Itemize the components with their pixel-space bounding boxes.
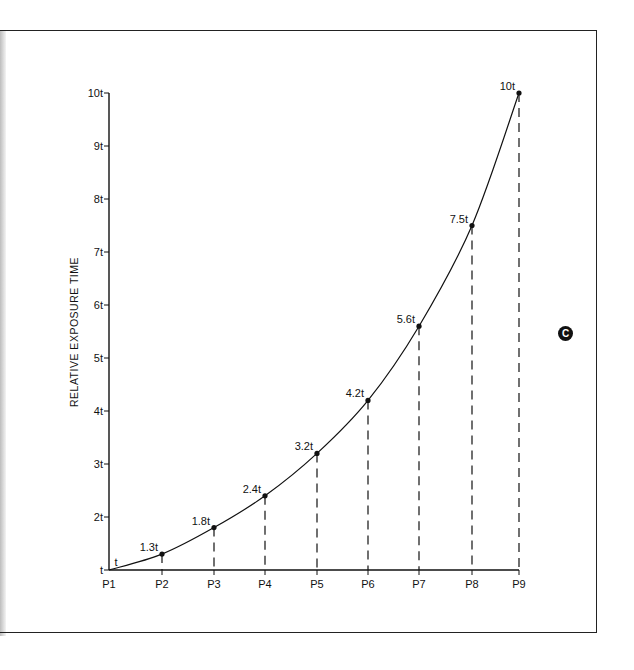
y-axis-label: RELATIVE EXPOSURE TIME: [68, 257, 80, 407]
data-label: 5.6t: [397, 313, 415, 325]
x-category-label: P3: [207, 578, 220, 590]
y-tick-label: 6t: [94, 299, 103, 311]
data-label: 1.3t: [140, 541, 158, 553]
data-point: [469, 223, 474, 228]
data-label: 2.4t: [243, 483, 261, 495]
y-tick-label: 4t: [94, 405, 103, 417]
data-point: [159, 552, 164, 557]
y-tick-label: 5t: [94, 352, 103, 364]
exposure-chart: t2t3t4t5t6t7t8t9t10t t1.3t1.8t2.4t3.2t4.…: [0, 0, 634, 670]
data-point: [211, 525, 216, 530]
data-label: t: [114, 556, 117, 568]
data-label: 10t: [500, 80, 515, 92]
y-tick-label: 8t: [94, 193, 103, 205]
data-label: 7.5t: [450, 213, 468, 225]
x-category-label: P5: [310, 578, 323, 590]
x-category-label: P4: [258, 578, 271, 590]
y-tick-label: 10t: [88, 87, 103, 99]
data-point: [416, 324, 421, 329]
x-category-label: P9: [512, 578, 525, 590]
x-category-label: P1: [102, 578, 115, 590]
x-category-label: P7: [412, 578, 425, 590]
x-category-label: P6: [361, 578, 374, 590]
data-point: [314, 451, 319, 456]
x-category-label: P8: [465, 578, 478, 590]
y-tick-label: 3t: [94, 458, 103, 470]
data-label: 4.2t: [346, 387, 364, 399]
x-category-label: P2: [155, 578, 168, 590]
data-point: [262, 493, 267, 498]
data-point: [365, 398, 370, 403]
data-label: 1.8t: [192, 515, 210, 527]
y-tick-label: 2t: [94, 511, 103, 523]
data-label: 3.2t: [295, 440, 313, 452]
exposure-curve: [109, 93, 519, 570]
data-point: [516, 90, 521, 95]
y-tick-label: 7t: [94, 246, 103, 258]
y-tick-label: t: [100, 564, 103, 576]
panel-badge-c: C: [558, 326, 573, 341]
y-tick-label: 9t: [94, 140, 103, 152]
